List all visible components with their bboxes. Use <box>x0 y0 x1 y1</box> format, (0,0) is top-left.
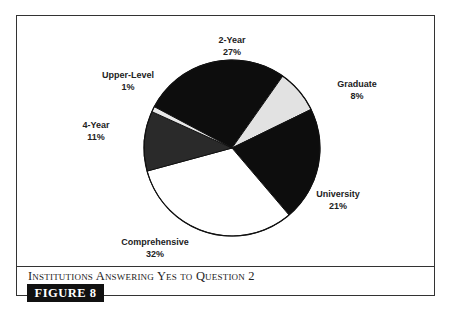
slice-label-upper-level: Upper-Level1% <box>102 69 154 93</box>
slice-label-comprehensive: Comprehensive32% <box>121 236 189 260</box>
slice-label-value: 27% <box>218 46 245 58</box>
slice-label-name: Comprehensive <box>121 236 189 248</box>
caption-divider <box>16 266 435 267</box>
slice-label-value: 8% <box>337 90 377 102</box>
slice-label-name: Upper-Level <box>102 69 154 81</box>
slice-label-value: 32% <box>121 248 189 260</box>
slice-label-university: University21% <box>316 188 360 212</box>
slice-label-name: 2-Year <box>218 34 245 46</box>
slice-label-value: 11% <box>82 131 109 143</box>
slice-label-graduate: Graduate8% <box>337 78 377 102</box>
figure-caption: Institutions Answering Yes to Question 2 <box>28 269 255 284</box>
slice-label-2-year: 2-Year27% <box>218 34 245 58</box>
slice-label-value: 1% <box>102 81 154 93</box>
figure-badge: FIGURE 8 <box>27 284 104 302</box>
slice-label-4-year: 4-Year11% <box>82 119 109 143</box>
slice-label-value: 21% <box>316 200 360 212</box>
slice-label-name: University <box>316 188 360 200</box>
slice-label-name: Graduate <box>337 78 377 90</box>
slice-label-name: 4-Year <box>82 119 109 131</box>
